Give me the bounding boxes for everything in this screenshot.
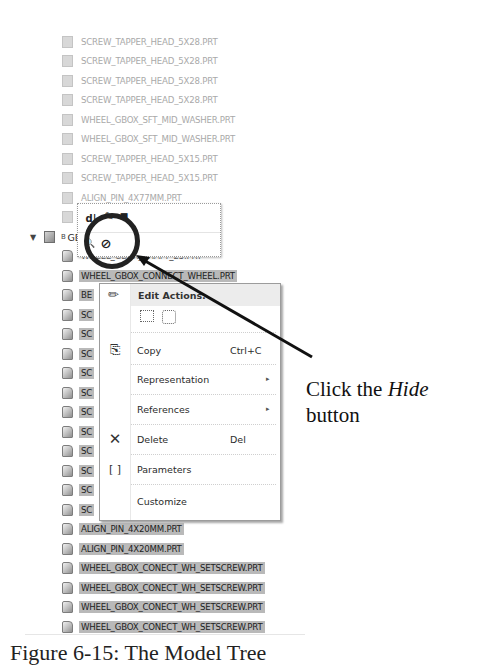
menu-item-parameters[interactable]: [ ] Parameters: [100, 456, 280, 482]
tree-item[interactable]: BE: [62, 286, 94, 304]
part-icon: [62, 562, 73, 574]
tree-item[interactable]: SCREW_TAPPER_HEAD_5X28.PRT: [62, 33, 219, 51]
part-icon: [62, 55, 73, 67]
part-icon: [62, 192, 73, 204]
part-icon: [62, 36, 73, 48]
submenu-arrow-icon: ▸: [266, 405, 280, 413]
part-icon: [62, 250, 73, 262]
part-icon: [62, 465, 73, 477]
copy-paste-action-icon[interactable]: [140, 310, 154, 322]
menu-item-references[interactable]: References ▸: [100, 396, 280, 422]
tree-item[interactable]: SC: [62, 501, 94, 519]
figure-caption: Figure 6-15: The Model Tree: [10, 640, 266, 666]
copy-icon: ⎘: [100, 342, 130, 358]
part-icon: [62, 270, 73, 282]
tree-item[interactable]: SC: [62, 442, 94, 460]
tree-item[interactable]: SC: [62, 481, 94, 499]
part-icon: [62, 153, 73, 165]
menu-item-delete[interactable]: ✕ Delete Del: [100, 426, 280, 452]
tree-item[interactable]: WHEEL_GBOX_CONECT_WH_SETSCREW.PRT: [62, 598, 265, 616]
expand-toggle-icon[interactable]: ▼: [30, 233, 36, 242]
parameters-icon: [ ]: [100, 463, 130, 476]
part-icon: [62, 211, 73, 223]
replace-action-icon[interactable]: [162, 310, 176, 324]
menu-divider: [131, 332, 276, 334]
tree-item[interactable]: SCREW_TAPPER_HEAD_5X15.PRT: [62, 169, 219, 187]
tree-item[interactable]: SC: [62, 384, 94, 402]
part-icon: [62, 582, 73, 594]
menu-item-representation[interactable]: Representation ▸: [100, 366, 280, 392]
callout-text: Click the Hide button: [306, 376, 428, 428]
part-icon: [62, 75, 73, 87]
highlight-circle: [84, 213, 140, 269]
tree-item[interactable]: SCREW_TAPPER_HEAD_5X28.PRT: [62, 91, 219, 109]
tree-item[interactable]: SCREW_TAPPER_HEAD_5X28.PRT: [62, 72, 219, 90]
tree-item[interactable]: SC: [62, 462, 94, 480]
edit-icon: ✏: [108, 287, 119, 302]
tree-item[interactable]: ALIGN_PIN_4X20MM.PRT: [62, 540, 184, 558]
delete-icon: ✕: [100, 430, 130, 448]
part-icon: [62, 621, 73, 633]
part-icon: [62, 309, 73, 321]
tree-item[interactable]: ALIGN_PIN_4X20MM.PRT: [62, 520, 184, 538]
part-icon: [62, 504, 73, 516]
tree-item[interactable]: SCREW_TAPPER_HEAD_5X28.PRT: [62, 52, 219, 70]
part-icon: [62, 289, 73, 301]
menu-item-customize[interactable]: Customize: [100, 488, 280, 514]
part-icon: [62, 387, 73, 399]
tree-item[interactable]: WHEEL_GBOX_CONECT_WH_SETSCREW.PRT: [62, 579, 265, 597]
part-icon: [62, 367, 73, 379]
context-menu: ✏ Edit Actions: ⎘ Copy Ctrl+C Representa…: [99, 283, 281, 521]
menu-divider: [131, 484, 276, 486]
part-icon: [62, 133, 73, 145]
part-icon: [62, 348, 73, 360]
tree-item[interactable]: SCREW_TAPPER_HEAD_5X15.PRT: [62, 150, 219, 168]
part-icon: [62, 445, 73, 457]
part-icon: [62, 172, 73, 184]
part-icon: [62, 426, 73, 438]
part-icon: [62, 484, 73, 496]
assembly-icon: [44, 231, 55, 243]
tree-item[interactable]: WHEEL_GBOX_SFT_MID_WASHER.PRT: [62, 111, 237, 129]
part-icon: [62, 94, 73, 106]
tree-item[interactable]: SC: [62, 403, 94, 421]
part-icon: [62, 328, 73, 340]
tree-item[interactable]: SC: [62, 325, 94, 343]
part-icon: [62, 601, 73, 613]
tree-item[interactable]: WHEEL_GBOX_SFT_MID_WASHER.PRT: [62, 130, 237, 148]
tree-item[interactable]: WHEEL_GBOX_CONECT_WH_SETSCREW.PRT: [62, 559, 265, 577]
tree-bottom-divider: [25, 634, 305, 635]
part-icon: [62, 543, 73, 555]
tree-item[interactable]: SC: [62, 423, 94, 441]
submenu-arrow-icon: ▸: [266, 375, 280, 383]
tree-item[interactable]: SC: [62, 364, 94, 382]
tree-item[interactable]: SC: [62, 306, 94, 324]
edit-actions-header: Edit Actions:: [131, 284, 280, 306]
tree-item[interactable]: SC: [62, 345, 94, 363]
part-icon: [62, 523, 73, 535]
menu-item-copy[interactable]: ⎘ Copy Ctrl+C: [100, 337, 280, 363]
part-icon: [62, 406, 73, 418]
part-icon: [62, 114, 73, 126]
